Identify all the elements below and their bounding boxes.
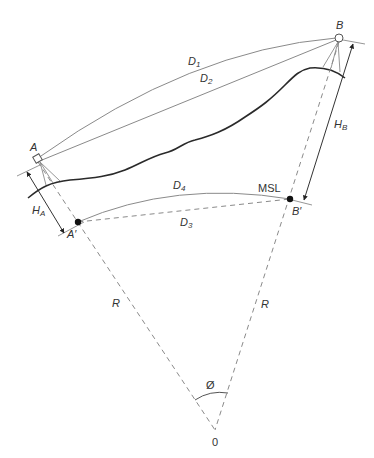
label-d2-sub: 2 (208, 77, 212, 86)
point-a-prime-dot (75, 219, 81, 225)
label-d4-sub: 4 (181, 184, 185, 193)
label-hb: HB (334, 119, 347, 132)
label-msl: MSL (258, 183, 281, 194)
label-radius-left: R (112, 298, 120, 309)
b-sight-1 (323, 42, 338, 67)
label-d1-sub: 1 (196, 60, 200, 69)
label-hb-base: H (334, 118, 342, 130)
point-a-instrument-icon (33, 154, 43, 164)
label-d2-base: D (200, 72, 208, 84)
point-b-target-icon (335, 34, 343, 42)
point-b-prime-dot (287, 196, 293, 202)
radius-right (215, 42, 339, 430)
label-angle: Ø (206, 380, 215, 391)
label-radius-right: R (261, 299, 269, 310)
b-tangent-tick (343, 40, 365, 44)
label-a-prime: A′ (67, 229, 76, 240)
label-d2: D2 (200, 73, 212, 86)
label-d1-base: D (188, 55, 196, 67)
label-hb-sub: B (342, 123, 347, 132)
label-ha-base: H (32, 204, 40, 216)
label-center: 0 (212, 437, 218, 448)
label-d4: D4 (173, 180, 185, 193)
label-d1: D1 (188, 56, 200, 69)
angle-arc (195, 392, 228, 400)
label-b: B (336, 20, 343, 31)
label-ha: HA (32, 205, 45, 218)
label-a: A (30, 142, 37, 153)
label-d3-base: D (180, 216, 188, 228)
label-b-prime: B′ (292, 206, 301, 217)
b-sight-3 (338, 42, 340, 72)
label-ha-sub: A (40, 209, 45, 218)
radius-left (38, 162, 215, 430)
label-d3: D3 (180, 217, 192, 230)
label-d3-sub: 3 (188, 221, 192, 230)
label-d4-base: D (173, 179, 181, 191)
